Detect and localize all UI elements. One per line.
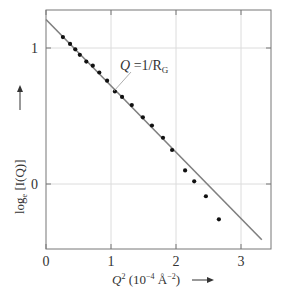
x-tick-label: 2 [173,254,180,269]
annotation-label: Q =1/RG [120,58,169,75]
plot-frame [46,10,271,249]
data-point [161,136,165,140]
data-point [192,179,196,183]
fit-line [46,19,262,239]
data-point [217,217,221,221]
guinier-plot: 012301 Q =1/RG Q2 (10−4 Å−2) loge [I(Q)] [0,0,288,294]
annotation-leader-line [114,72,131,91]
data-point [204,194,208,198]
axis-ticks [46,10,271,249]
tick-labels: 012301 [31,41,245,269]
y-axis-title: loge [I(Q)] [12,160,29,214]
x-tick-label: 1 [108,254,115,269]
fit-line-segment [46,19,262,239]
grid-lines [46,10,271,249]
y-tick-label: 1 [31,41,38,56]
data-point [68,42,72,46]
data-point [105,79,109,83]
data-point [150,123,154,127]
data-point [91,64,95,68]
data-point [61,35,65,39]
data-point [170,148,174,152]
x-axis-arrow-icon [192,277,214,283]
y-tick-label: 0 [31,177,38,192]
x-tick-label: 0 [43,254,50,269]
x-axis-title: Q2 (10−4 Å−2) [112,272,180,287]
data-point [120,95,124,99]
data-point [78,53,82,57]
data-point [84,60,88,64]
data-point [141,115,145,119]
data-point [130,103,134,107]
data-point [183,168,187,172]
data-point [73,47,77,51]
x-tick-label: 3 [238,254,245,269]
data-point [97,70,101,74]
y-axis-arrow-icon [17,85,23,110]
